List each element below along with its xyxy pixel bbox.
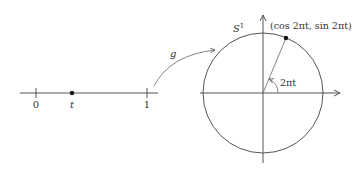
angle-label: 2πt xyxy=(280,77,296,88)
label-0: 0 xyxy=(33,99,39,110)
circle-label: S1 xyxy=(233,22,244,34)
map-label: g xyxy=(170,48,176,59)
circle-point xyxy=(284,36,288,40)
point-t xyxy=(70,91,74,95)
point-label: (cos 2πt, sin 2πt) xyxy=(270,20,352,31)
map-g: g xyxy=(154,48,215,86)
axes xyxy=(200,15,340,163)
label-t: t xyxy=(70,99,75,110)
map-arrow xyxy=(154,50,215,86)
diagram-canvas: 0 t 1 g S1 (cos 2πt, sin 2πt) 2πt xyxy=(0,0,363,170)
angle-arc xyxy=(269,79,278,93)
unit-interval: 0 t 1 xyxy=(20,88,158,110)
label-1: 1 xyxy=(144,99,150,110)
